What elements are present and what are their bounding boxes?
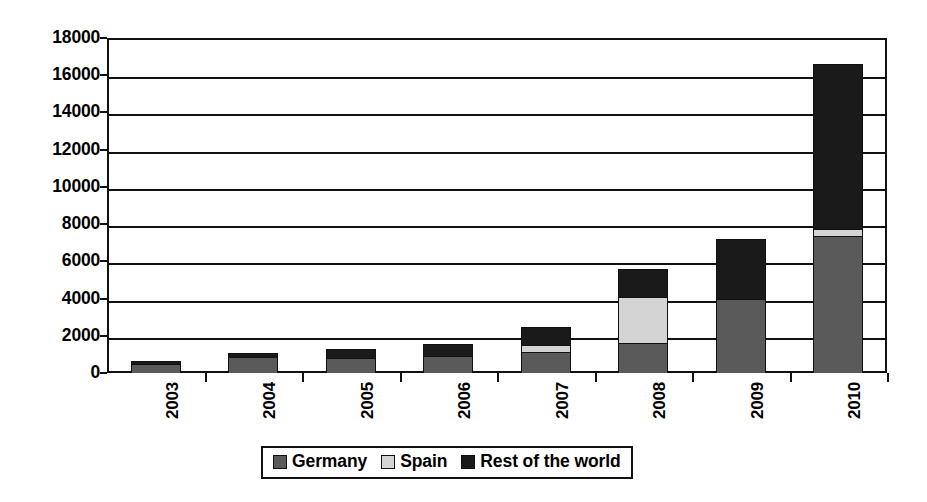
x-axis-tick-label: 2007	[554, 382, 571, 419]
x-axis-labels: 20032004200520062007200820092010	[0, 0, 927, 502]
legend-label: Rest of the world	[480, 453, 620, 471]
x-axis-tick-mark	[205, 373, 207, 382]
y-axis-tick-mark	[100, 298, 107, 300]
legend-item[interactable]: Spain	[381, 453, 447, 471]
y-axis-tick-mark	[100, 335, 107, 337]
x-axis-tick-mark	[497, 373, 499, 382]
x-axis-tick-label: 2005	[359, 382, 376, 419]
y-axis-tick-mark	[100, 37, 107, 39]
x-axis-tick-mark	[400, 373, 402, 382]
legend-swatch-icon	[273, 455, 287, 469]
x-axis-tick-label: 2008	[651, 382, 668, 419]
x-axis-tick-mark	[302, 373, 304, 382]
legend-label: Germany	[292, 453, 367, 471]
y-axis-tick-mark	[100, 74, 107, 76]
legend-item[interactable]: Rest of the world	[461, 453, 620, 471]
y-axis-tick-mark	[100, 372, 107, 374]
x-axis-tick-mark	[790, 373, 792, 382]
x-axis-tick-label: 2006	[456, 382, 473, 419]
x-axis-tick-label: 2010	[846, 382, 863, 419]
y-axis-tick-mark	[100, 111, 107, 113]
stacked-bar-chart: 0200040006000800010000120001400016000180…	[0, 0, 927, 502]
x-axis-tick-mark	[692, 373, 694, 382]
legend-swatch-icon	[381, 455, 395, 469]
legend-swatch-icon	[461, 455, 475, 469]
y-axis-tick-mark	[100, 223, 107, 225]
x-axis-tick-label: 2003	[164, 382, 181, 419]
x-axis-tick-label: 2009	[749, 382, 766, 419]
x-axis-tick-mark	[887, 373, 889, 382]
legend-label: Spain	[400, 453, 447, 471]
chart-legend: GermanySpainRest of the world	[261, 446, 633, 479]
legend-item[interactable]: Germany	[273, 453, 367, 471]
y-axis-tick-mark	[100, 186, 107, 188]
x-axis-tick-mark	[595, 373, 597, 382]
y-axis-tick-mark	[100, 260, 107, 262]
y-axis-tick-mark	[100, 149, 107, 151]
x-axis-tick-label: 2004	[261, 382, 278, 419]
